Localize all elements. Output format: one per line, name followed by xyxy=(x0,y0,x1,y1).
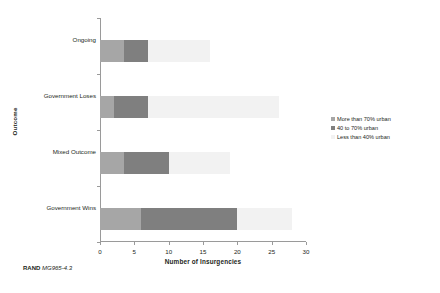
bar-segment xyxy=(148,96,278,118)
x-axis-tick xyxy=(272,242,273,245)
y-axis-tick-label-mixed-outcome: Mixed Outcome xyxy=(18,148,96,156)
x-axis-tick-label: 25 xyxy=(268,248,275,255)
figure-container: Outcome Ongoing Government Loses Mixed O… xyxy=(0,0,440,293)
y-axis-tick-label-government-wins: Government Wins xyxy=(18,204,96,212)
legend-label: More than 70% urban xyxy=(337,116,391,122)
bar-segment xyxy=(114,96,148,118)
bar-segment xyxy=(100,152,124,174)
x-axis-tick xyxy=(203,242,204,245)
x-axis-tick xyxy=(169,242,170,245)
bar-segment xyxy=(148,40,210,62)
x-axis-tick-label: 0 xyxy=(98,248,101,255)
bar-segment xyxy=(100,208,141,230)
bar-segment xyxy=(141,208,237,230)
bar-segment xyxy=(169,152,231,174)
y-axis-tick xyxy=(97,130,100,131)
legend-label: 40 to 70% urban xyxy=(337,125,378,131)
y-axis-tick xyxy=(97,242,100,243)
y-axis-tick-label-ongoing: Ongoing xyxy=(18,36,96,44)
x-axis-tick xyxy=(134,242,135,245)
x-axis-tick-label: 15 xyxy=(200,248,207,255)
legend-item-40-to-70: 40 to 70% urban xyxy=(331,123,439,132)
y-axis-tick xyxy=(97,186,100,187)
y-axis-tick xyxy=(97,74,100,75)
x-axis-title: Number of Insurgencies xyxy=(100,258,306,265)
legend-item-less-than-40: Less than 40% urban xyxy=(331,132,439,141)
x-axis-tick-label: 5 xyxy=(133,248,136,255)
bar-segment xyxy=(124,40,148,62)
x-axis-tick-label: 30 xyxy=(303,248,310,255)
y-axis-tick-labels: Ongoing Government Loses Mixed Outcome G… xyxy=(14,0,96,293)
legend-label: Less than 40% urban xyxy=(337,134,390,140)
bar-segment xyxy=(237,208,292,230)
x-axis-tick-label: 20 xyxy=(234,248,241,255)
y-axis-tick xyxy=(97,18,100,19)
x-axis-tick-label: 10 xyxy=(165,248,172,255)
x-axis-tick xyxy=(306,242,307,245)
x-axis-tick xyxy=(100,242,101,245)
bar-segment xyxy=(100,96,114,118)
legend-item-more-than-70: More than 70% urban xyxy=(331,114,439,123)
chart-legend: More than 70% urban 40 to 70% urban Less… xyxy=(331,114,439,141)
caption-source: RAND xyxy=(23,265,40,271)
y-axis-tick-label-government-loses: Government Loses xyxy=(18,92,96,100)
bar-segment xyxy=(100,40,124,62)
plot-area: 051015202530 xyxy=(100,18,306,242)
bar-segment xyxy=(124,152,169,174)
x-axis-tick xyxy=(237,242,238,245)
square-marker-icon xyxy=(331,135,335,139)
square-marker-icon xyxy=(331,126,335,130)
square-marker-icon xyxy=(331,117,335,121)
figure-caption: RAND MG965-4.3 xyxy=(23,265,72,271)
caption-figure-id: MG965-4.3 xyxy=(42,265,72,271)
